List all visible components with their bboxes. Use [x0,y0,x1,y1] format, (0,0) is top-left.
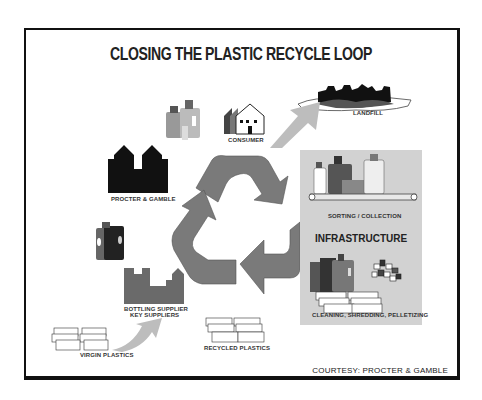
page-title: CLOSING THE PLASTIC RECYCLE LOOP [53,44,429,65]
shredding-bottles-icon [308,254,358,292]
courtesy-text: COURTESY: PROCTER & GAMBLE [312,366,448,375]
infrastructure-title: INFRASTRUCTURE [300,233,422,244]
arrow-to-landfill-icon [268,98,326,148]
factory-icon [108,143,170,193]
cleaning-label: CLEANING, SHREDDING, PELLETIZING [312,312,428,318]
arrow-to-supplier-icon [112,318,164,352]
recycled-plastics-label: RECYCLED PLASTICS [204,345,270,351]
procter-gamble-label: PROCTER & GAMBLE [111,196,176,202]
virgin-plastics-label: VIRGIN PLASTICS [80,352,134,358]
bottling-bottle-icon [94,222,126,260]
pellet-crates-icon [314,292,384,314]
house-icon [222,104,268,134]
recycle-icon [168,152,300,297]
infrastructure-panel: SORTING / COLLECTION INFRASTRUCTURE CLEA… [300,150,422,325]
conveyor-icon [308,154,418,204]
bottles-icon [164,96,204,142]
supplier-factory-icon [124,268,184,304]
virgin-plastics-crates-icon [52,328,112,352]
landfill-label: LANDFILL [353,110,383,116]
recycled-plastics-crates-icon [204,318,266,344]
plastic-flakes-icon [370,258,404,286]
consumer-label: CONSUMER [228,137,264,143]
sorting-collection-label: SORTING / COLLECTION [328,213,401,219]
